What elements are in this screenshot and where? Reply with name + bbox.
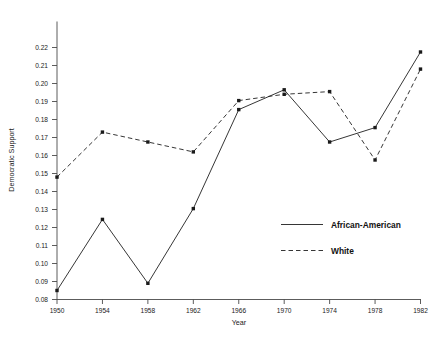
x-tick-label: 1982 [413,307,428,314]
y-tick-label: 0.17 [35,134,48,141]
y-tick-label: 0.12 [35,224,48,231]
y-tick-label: 0.10 [35,260,48,267]
series-line-white [57,69,421,177]
axes-group [57,22,421,300]
y-tick-label: 0.14 [35,188,48,195]
data-point-marker-african-american [192,207,195,210]
x-tick-label: 1974 [322,307,337,314]
x-tick-label: 1950 [50,307,65,314]
data-point-marker-white [328,90,331,93]
data-point-marker-african-american [146,282,149,285]
y-tick-label: 0.08 [35,296,48,303]
chart-canvas: 0.080.090.100.110.120.130.140.150.160.17… [0,0,437,343]
data-point-marker-white [237,99,240,102]
x-axis-ticks: 195019541958196219661970197419781982 [50,300,429,315]
x-tick-label: 1970 [277,307,292,314]
data-point-marker-white [146,140,149,143]
y-tick-label: 0.21 [35,62,48,69]
data-point-marker-african-american [328,140,331,143]
data-point-marker-african-american [101,218,104,221]
x-tick-label: 1978 [368,307,383,314]
y-tick-label: 0.20 [35,80,48,87]
y-tick-label: 0.18 [35,116,48,123]
y-tick-label: 0.13 [35,206,48,213]
x-tick-label: 1962 [186,307,201,314]
data-point-marker-african-american [419,50,422,53]
data-point-marker-african-american [373,126,376,129]
y-tick-label: 0.19 [35,98,48,105]
data-point-marker-white [373,158,376,161]
y-axis-title: Democratic Support [7,128,16,192]
data-point-marker-white [282,93,285,96]
y-tick-label: 0.16 [35,152,48,159]
data-point-marker-white [192,150,195,153]
x-tick-label: 1954 [95,307,110,314]
y-tick-label: 0.15 [35,170,48,177]
y-tick-label: 0.09 [35,278,48,285]
y-axis-ticks: 0.080.090.100.110.120.130.140.150.160.17… [35,44,57,303]
y-tick-label: 0.11 [36,242,49,249]
legend-label-african-american: African-American [331,220,401,230]
data-point-marker-african-american [55,289,58,292]
y-tick-label: 0.22 [35,44,48,51]
data-point-marker-african-american [237,108,240,111]
data-point-marker-african-american [282,88,285,91]
x-tick-label: 1966 [231,307,246,314]
data-point-marker-white [419,67,422,70]
data-point-marker-white [55,175,58,178]
x-tick-label: 1958 [141,307,156,314]
series-line-african-american [57,52,421,291]
series-layer [55,50,422,292]
data-point-marker-white [101,130,104,133]
democratic-support-line-chart: 0.080.090.100.110.120.130.140.150.160.17… [0,0,437,343]
x-axis-title: Year [232,318,247,327]
chart-legend: African-American White [281,220,401,256]
legend-label-white: White [331,246,354,256]
